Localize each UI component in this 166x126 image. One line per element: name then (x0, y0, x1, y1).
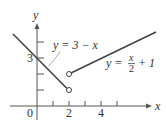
y-tick-label-3: 3 (27, 51, 33, 65)
equation-label-1: y = 3 − x (52, 38, 99, 52)
y-axis-label: y (32, 8, 39, 22)
x-axis-arrow-icon (146, 104, 152, 109)
label-pointer (49, 52, 60, 66)
x-axis-label: x (154, 99, 161, 113)
equation-label-2-numerator: x (128, 52, 134, 63)
open-circle-2-1 (67, 88, 72, 93)
equation-label-2-left: y = (105, 56, 122, 70)
equation-label-2-right: + 1 (138, 56, 155, 70)
y-ticks (37, 42, 44, 90)
x-tick-label-2: 2 (66, 106, 72, 120)
piecewise-graph: y x 0 2 4 3 y = 3 − x y = x 2 + 1 (0, 0, 166, 126)
equation-label-2-denominator: 2 (129, 63, 134, 74)
y-axis-arrow-icon (35, 23, 40, 29)
x-ticks (53, 101, 117, 106)
x-tick-label-4: 4 (98, 106, 104, 120)
origin-label: 0 (27, 106, 33, 120)
open-circle-2-2 (67, 72, 72, 77)
